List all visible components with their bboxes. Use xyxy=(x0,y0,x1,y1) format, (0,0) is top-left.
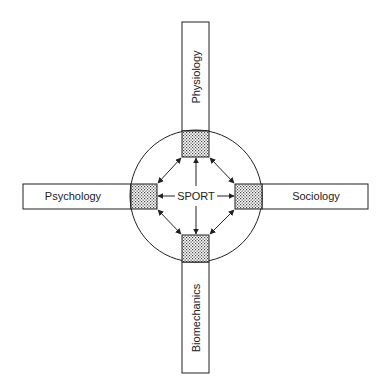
arrow-bottom-left xyxy=(158,210,181,234)
psychology-overlap xyxy=(131,184,157,209)
sociology-label: Sociology xyxy=(292,190,340,202)
biomechanics-label: Biomechanics xyxy=(190,283,202,352)
arrow-top-left xyxy=(158,158,181,183)
physiology-label: Physiology xyxy=(190,50,202,104)
arrow-top-right xyxy=(210,158,234,183)
sociology-overlap xyxy=(235,184,262,209)
psychology-label: Psychology xyxy=(45,190,102,202)
physiology-overlap xyxy=(182,131,209,157)
sport-disciplines-diagram: SPORT Physiology Biomechanics Psychology… xyxy=(0,0,388,387)
arrow-bottom-right xyxy=(210,210,234,234)
biomechanics-overlap xyxy=(182,235,209,262)
center-label: SPORT xyxy=(177,190,215,202)
